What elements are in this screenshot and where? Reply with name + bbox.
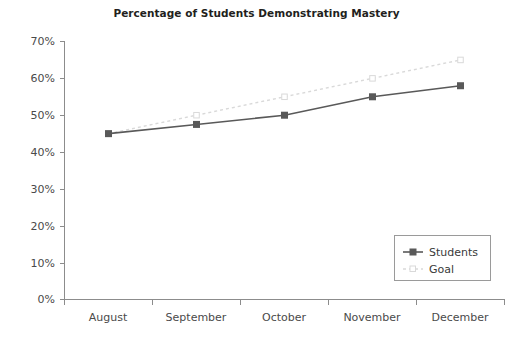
y-tick-label-60: 60%	[31, 72, 55, 85]
chart-container: Percentage of Students Demonstrating Mas…	[0, 0, 513, 339]
x-tick-label-december: December	[431, 311, 489, 324]
series-goal	[106, 57, 464, 136]
x-tick-label-september: September	[166, 311, 227, 324]
legend-label-goal: Goal	[429, 263, 454, 276]
chart-legend: Students Goal	[395, 236, 491, 281]
data-point-marker	[370, 76, 376, 82]
data-point-marker	[457, 82, 464, 89]
data-point-marker	[194, 112, 200, 118]
y-tick-label-50: 50%	[31, 109, 55, 122]
data-point-marker	[281, 112, 288, 119]
y-tick-label-70: 70%	[31, 35, 55, 48]
x-tick-label-november: November	[343, 311, 401, 324]
legend-label-students: Students	[429, 246, 478, 259]
legend-marker-goal	[410, 266, 416, 272]
series-students	[105, 82, 464, 137]
y-tick-label-30: 30%	[31, 183, 55, 196]
y-tick-label-20: 20%	[31, 220, 55, 233]
data-point-marker	[105, 130, 112, 137]
x-tick-label-october: October	[262, 311, 306, 324]
chart-plot-area: 70% 60% 50% 40% 30% 20% 10% 0% August Se…	[0, 0, 513, 339]
legend-marker-students	[410, 249, 417, 256]
data-point-marker	[369, 93, 376, 100]
data-point-marker	[458, 57, 464, 63]
y-tick-label-0: 0%	[38, 293, 55, 306]
y-axis-ticks	[60, 42, 65, 300]
data-point-marker	[193, 121, 200, 128]
x-axis-ticks	[65, 300, 505, 306]
data-point-marker	[282, 94, 288, 100]
y-tick-label-40: 40%	[31, 146, 55, 159]
x-tick-label-august: August	[89, 311, 128, 324]
y-tick-label-10: 10%	[31, 257, 55, 270]
